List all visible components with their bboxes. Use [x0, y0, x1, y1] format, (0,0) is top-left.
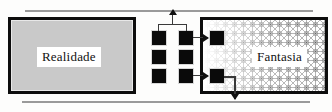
grid-top-bracket-leg-right [186, 24, 187, 31]
grid-square-row1-col1 [152, 31, 166, 45]
arrow-down-icon [231, 94, 239, 100]
grid-top-bracket-stem [172, 14, 173, 25]
arrow-right-icon-bottom [203, 72, 209, 80]
fantasy-square-top [210, 31, 224, 45]
grid-square-row1-col2 [179, 31, 193, 45]
arrow-right-icon-top [203, 34, 209, 42]
grid-square-row2-col1 [152, 50, 166, 64]
grid-square-row2-col2 [179, 50, 193, 64]
grid-square-row3-col1 [152, 69, 166, 83]
reality-label: Realidade [37, 47, 101, 67]
grid-square-row3-col2 [179, 69, 193, 83]
lower-scale-line [22, 101, 310, 103]
grid-top-bracket-leg-left [158, 24, 159, 31]
arrow-up-icon [169, 9, 177, 15]
fantasy-square-bottom [210, 69, 224, 83]
fantasy-label: Fantasia [252, 47, 307, 67]
diagram-canvas: Realidade Fantasia [0, 0, 332, 112]
